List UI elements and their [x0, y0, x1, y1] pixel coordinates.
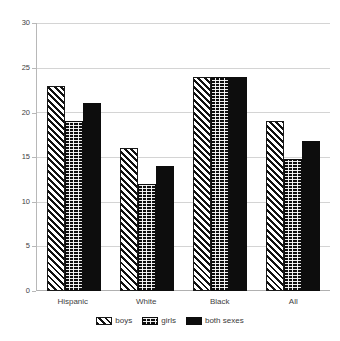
x-axis-label-white: White — [110, 296, 184, 310]
bar-black-boys — [193, 77, 211, 291]
x-axis-label-black: Black — [183, 296, 257, 310]
legend-label-girls: girls — [161, 316, 176, 326]
bar-groups — [37, 23, 330, 291]
y-axis-tick-label-0: 0 — [0, 287, 30, 295]
bar-all-boys — [266, 121, 284, 291]
y-axis-tick-label-15: 15 — [0, 153, 30, 161]
legend-item-boys: boys — [96, 316, 132, 326]
bar-white-girls — [138, 184, 156, 291]
bar-all-girls — [284, 159, 302, 291]
y-axis-tick-mark-0 — [32, 291, 36, 292]
bar-group-all — [257, 23, 330, 291]
bar-white-boys — [120, 148, 138, 291]
legend-item-both-sexes: both sexes — [186, 316, 244, 326]
legend-swatch-boys-icon — [96, 317, 112, 325]
x-axis: Hispanic White Black All — [36, 296, 330, 310]
bar-black-girls — [211, 77, 229, 291]
y-axis-tick-label-10: 10 — [0, 198, 30, 206]
bar-chart: 30 25 20 15 10 5 0 — [0, 0, 340, 341]
legend-swatch-both-sexes-icon — [186, 317, 202, 325]
y-axis-tick-label-20: 20 — [0, 109, 30, 117]
legend-label-both-sexes: both sexes — [205, 316, 244, 326]
bar-group-black — [184, 23, 257, 291]
bar-hispanic-both-sexes — [83, 103, 101, 291]
bar-white-both-sexes — [156, 166, 174, 291]
legend-swatch-girls-icon — [142, 317, 158, 325]
legend-item-girls: girls — [142, 316, 176, 326]
bar-group-hispanic — [37, 23, 110, 291]
y-axis-tick-label-25: 25 — [0, 64, 30, 72]
plot-area — [36, 23, 330, 291]
legend-label-boys: boys — [115, 316, 132, 326]
x-axis-label-hispanic: Hispanic — [36, 296, 110, 310]
y-axis-tick-label-30: 30 — [0, 19, 30, 27]
chart-legend: boys girls both sexes — [0, 316, 340, 326]
bar-hispanic-boys — [47, 86, 65, 291]
y-axis-tick-label-5: 5 — [0, 242, 30, 250]
bar-black-both-sexes — [229, 77, 247, 291]
bar-hispanic-girls — [65, 121, 83, 291]
x-axis-label-all: All — [257, 296, 331, 310]
bar-group-white — [110, 23, 183, 291]
bar-all-both-sexes — [302, 141, 320, 291]
